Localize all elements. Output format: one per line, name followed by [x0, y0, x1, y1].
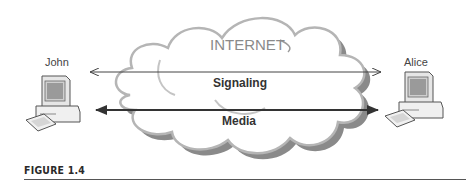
- internet-label: INTERNET: [210, 36, 285, 53]
- alice-label: Alice: [404, 56, 428, 68]
- figure-caption: FIGURE 1.4: [24, 164, 85, 177]
- media-label: Media: [222, 114, 256, 128]
- john-computer-icon: [26, 76, 80, 131]
- caption-rule: [24, 179, 466, 180]
- diagram-canvas: [0, 0, 466, 185]
- alice-computer-icon: [385, 72, 443, 127]
- john-label: John: [45, 56, 69, 68]
- signaling-label: Signaling: [213, 76, 267, 90]
